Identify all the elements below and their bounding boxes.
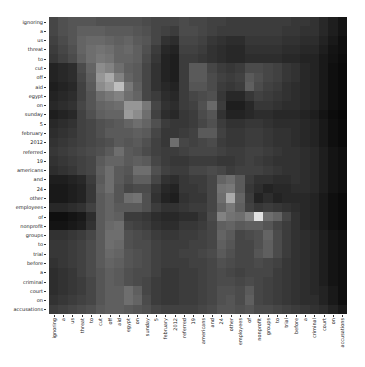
heatmap-cell [235,147,244,156]
heatmap-cell [105,305,114,314]
heatmap-cell [114,119,123,128]
heatmap-cell [96,26,105,35]
heatmap-cell [207,156,216,165]
heatmap-cell [207,268,216,277]
heatmap-cell [105,91,114,100]
heatmap-cell [124,147,133,156]
heatmap-cell [226,268,235,277]
heatmap-cell [328,203,337,212]
heatmap-cell [328,82,337,91]
heatmap-cell [124,184,133,193]
x-tick-mark [63,315,64,317]
y-tick-label: employees [16,204,46,210]
x-tick-label: trial [283,318,289,328]
heatmap-cell [198,26,207,35]
heatmap-cell [96,305,105,314]
heatmap-cell [170,91,179,100]
heatmap-cell [291,91,300,100]
heatmap-cell [68,128,77,137]
heatmap-cell [338,286,347,295]
heatmap-cell [217,91,226,100]
heatmap-cell [142,166,151,175]
heatmap-cell [328,147,337,156]
heatmap-cell [245,17,254,26]
heatmap-cell [263,45,272,54]
heatmap-cell [198,193,207,202]
heatmap-cell [226,203,235,212]
heatmap-cell [96,240,105,249]
heatmap-cell [161,240,170,249]
heatmap-cell [235,193,244,202]
heatmap-cell [77,305,86,314]
heatmap-cell [198,54,207,63]
heatmap-cell [151,249,160,258]
heatmap-cell [273,268,282,277]
heatmap-cell [189,101,198,110]
heatmap-cell [189,249,198,258]
y-tick-label: to [38,241,46,247]
heatmap-cell [217,295,226,304]
heatmap-cell [300,63,309,72]
heatmap-cell [142,221,151,230]
heatmap-cell [198,63,207,72]
heatmap-cell [273,212,282,221]
heatmap-cell [300,277,309,286]
heatmap-cell [300,203,309,212]
heatmap-cell [198,286,207,295]
heatmap-cell [142,63,151,72]
heatmap-cell [124,277,133,286]
heatmap-cell [151,268,160,277]
heatmap-cell [207,193,216,202]
heatmap-cell [124,166,133,175]
heatmap-cell [198,17,207,26]
heatmap-cell [77,212,86,221]
heatmap-cell [86,45,95,54]
heatmap-cell [161,230,170,239]
heatmap-cell [254,193,263,202]
heatmap-cell [77,54,86,63]
heatmap-cell [226,63,235,72]
heatmap-cell [319,184,328,193]
heatmap-cell [161,212,170,221]
heatmap-cell [198,128,207,137]
x-tick-label: of [246,318,252,323]
heatmap-cell [328,119,337,128]
heatmap-cell [300,249,309,258]
heatmap-cell [114,138,123,147]
heatmap-cell [338,240,347,249]
heatmap-cell [86,91,95,100]
heatmap-cell [151,82,160,91]
heatmap-cell [68,54,77,63]
heatmap-cell [49,45,58,54]
heatmap-cell [58,184,67,193]
heatmap-cell [328,54,337,63]
heatmap-cell [124,82,133,91]
heatmap-cell [310,73,319,82]
heatmap-cell [142,230,151,239]
heatmap-cell [189,230,198,239]
heatmap-cell [328,26,337,35]
heatmap-cell [263,295,272,304]
heatmap-cell [96,286,105,295]
heatmap-cell [310,277,319,286]
heatmap-cell [319,258,328,267]
heatmap-cell [133,203,142,212]
heatmap-cell [273,110,282,119]
heatmap-cell [179,63,188,72]
heatmap-cell [310,230,319,239]
heatmap-cell [77,221,86,230]
heatmap-cell [207,212,216,221]
x-tick-mark [72,315,73,317]
heatmap-cell [291,212,300,221]
heatmap-cell [86,82,95,91]
heatmap-cell [254,277,263,286]
heatmap-cell [170,82,179,91]
heatmap-cell [114,54,123,63]
heatmap-cell [338,277,347,286]
heatmap-cell [282,101,291,110]
heatmap-cell [133,91,142,100]
heatmap-cell [49,128,58,137]
heatmap-cell [338,258,347,267]
heatmap-cell [338,175,347,184]
heatmap-cell [217,128,226,137]
